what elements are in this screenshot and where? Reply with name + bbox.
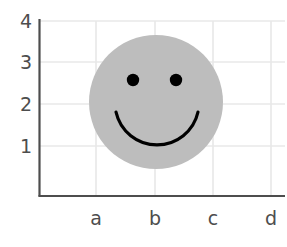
x-tick-label-b: b [149, 207, 161, 229]
y-tick-label-1: 1 [20, 135, 32, 157]
y-tick-label-4: 4 [20, 10, 32, 32]
smiley-left-eye-icon [127, 74, 139, 86]
x-tick-labels: a b c d [90, 207, 277, 229]
smiley-face-circle [89, 35, 223, 169]
y-tick-label-2: 2 [20, 93, 32, 115]
plot-svg: 4 3 2 1 a b c d [0, 0, 287, 247]
y-tick-labels: 4 3 2 1 [20, 10, 32, 157]
x-tick-label-c: c [208, 207, 218, 229]
y-tick-label-3: 3 [20, 51, 32, 73]
chart-figure: 4 3 2 1 a b c d [0, 0, 287, 247]
x-tick-label-d: d [265, 207, 277, 229]
x-tick-label-a: a [90, 207, 102, 229]
smiley-right-eye-icon [170, 74, 182, 86]
smiley-face [89, 35, 223, 169]
